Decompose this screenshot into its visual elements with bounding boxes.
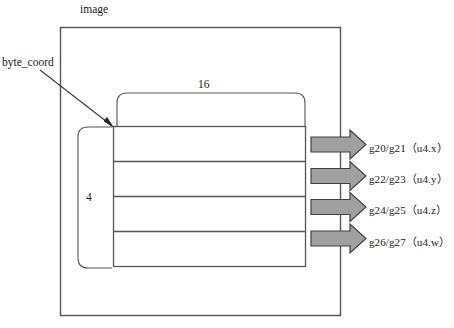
- output-label-u4w: g26/g27（u4.w）: [369, 233, 450, 249]
- output-label-u4y: g22/g23（u4.y）: [369, 170, 448, 186]
- byte-coord-pointer: [40, 70, 113, 127]
- diagram-vector-layer: [0, 0, 454, 328]
- width-brace: [117, 93, 305, 127]
- height-dimension-label: 4: [86, 192, 92, 204]
- image-label: image: [80, 4, 108, 16]
- output-label-u4x: g20/g21（u4.x）: [369, 139, 448, 155]
- output-label-u4z: g24/g25（u4.z）: [369, 201, 447, 217]
- byte-coord-table: [114, 127, 306, 267]
- block-arrow: [311, 193, 366, 222]
- byte-coord-label: byte_coord: [2, 57, 54, 69]
- byte-coord-layout-diagram: image byte_coord 16 4 g20/g21（u4.x） g22/…: [0, 0, 454, 328]
- block-arrow: [311, 130, 366, 159]
- block-arrow: [311, 162, 366, 191]
- block-arrow: [311, 224, 366, 253]
- height-brace: [78, 127, 112, 268]
- output-block-arrows: [311, 130, 366, 253]
- width-dimension-label: 16: [198, 79, 210, 91]
